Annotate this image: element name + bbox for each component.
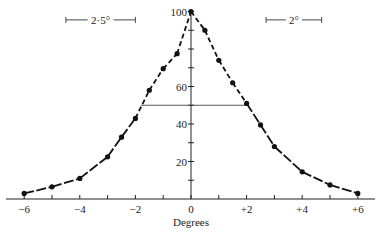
y-tick-label: 60 <box>176 81 188 93</box>
curve-segment-solid <box>24 187 52 194</box>
y-tick-label: 40 <box>176 118 188 130</box>
x-tick-label: +6 <box>352 203 364 215</box>
curve-segment-solid <box>108 137 122 157</box>
annotations: 2·5°2° <box>66 14 322 105</box>
data-point <box>119 135 124 140</box>
x-tick-label: 0 <box>188 203 194 215</box>
curve-segment-dashed <box>177 12 191 54</box>
curve-segment-dashed <box>149 69 163 91</box>
curve-segment-dashed <box>135 90 149 118</box>
x-tick-label: −2 <box>130 203 142 215</box>
curve-segment-solid <box>52 178 80 186</box>
curve-segment-dashed <box>233 83 247 104</box>
curve-segment-dashed <box>219 60 233 83</box>
data-point <box>355 191 360 196</box>
x-tick-label: +2 <box>241 203 253 215</box>
x-axis-label: Degrees <box>173 216 209 228</box>
data-point <box>147 88 152 93</box>
data-point <box>202 28 207 33</box>
data-point <box>22 191 27 196</box>
curve-segment-solid <box>80 157 108 179</box>
curve-segment-solid <box>122 118 136 137</box>
curve-segment-dashed <box>205 30 219 60</box>
data-point <box>175 51 180 56</box>
scale-bar-label: 2·5° <box>91 14 110 26</box>
data-point <box>105 154 110 159</box>
data-point <box>133 116 138 121</box>
curve-segment-solid <box>247 103 261 125</box>
curve-segment-solid <box>302 172 330 185</box>
curve-segment-solid <box>274 147 302 172</box>
data-point <box>161 66 166 71</box>
y-tick-label: 20 <box>176 156 188 168</box>
x-tick-label: −4 <box>74 203 86 215</box>
data-point <box>188 9 193 14</box>
data-point <box>216 58 221 63</box>
curve-segment-dashed <box>163 54 177 69</box>
x-tick-label: +4 <box>296 203 308 215</box>
data-point <box>300 169 305 174</box>
curve-segment-dashed <box>191 12 205 31</box>
data-point <box>230 80 235 85</box>
data-point <box>272 144 277 149</box>
curve-segment-solid <box>261 125 275 147</box>
data-point <box>244 101 249 106</box>
scale-bar-label: 2° <box>289 14 299 26</box>
data-point <box>258 122 263 127</box>
y-tick-label: 100 <box>171 6 188 18</box>
data-point <box>327 182 332 187</box>
data-point <box>77 176 82 181</box>
line-chart: −6−4−20+2+4+6204060100 2·5°2° Degrees <box>0 0 382 234</box>
curve-segment-solid <box>330 185 358 193</box>
data-point <box>49 184 54 189</box>
x-tick-label: −6 <box>18 203 30 215</box>
